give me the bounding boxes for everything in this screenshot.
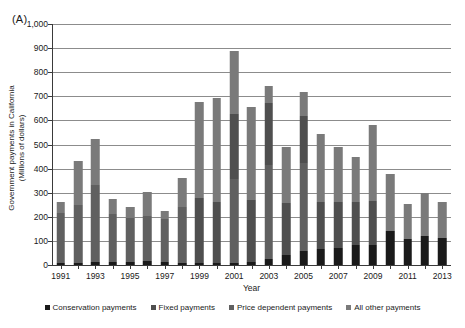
- bar-segment[interactable]: [317, 134, 326, 202]
- bar-segment[interactable]: [403, 239, 412, 265]
- stacked-bar[interactable]: [247, 107, 256, 265]
- bar-segment[interactable]: [299, 116, 308, 163]
- bar-segment[interactable]: [108, 214, 117, 262]
- bar-segment[interactable]: [282, 147, 291, 203]
- bar-segment[interactable]: [56, 213, 65, 262]
- bar-slot[interactable]: [121, 24, 138, 265]
- bar-segment[interactable]: [438, 238, 447, 265]
- bar-slot[interactable]: [69, 24, 86, 265]
- stacked-bar[interactable]: [299, 92, 308, 265]
- stacked-bar[interactable]: [178, 178, 187, 265]
- bar-segment[interactable]: [334, 202, 343, 248]
- stacked-bar[interactable]: [282, 147, 291, 265]
- bar-segment[interactable]: [247, 200, 256, 261]
- stacked-bar[interactable]: [386, 174, 395, 265]
- bar-segment[interactable]: [143, 192, 152, 217]
- bar-slot[interactable]: [364, 24, 381, 265]
- bar-segment[interactable]: [161, 211, 170, 219]
- bar-segment[interactable]: [230, 179, 239, 263]
- bar-segment[interactable]: [386, 231, 395, 265]
- bar-segment[interactable]: [126, 218, 135, 261]
- bar-segment[interactable]: [265, 165, 274, 259]
- bar-segment[interactable]: [317, 249, 326, 265]
- stacked-bar[interactable]: [317, 134, 326, 265]
- bar-segment[interactable]: [247, 107, 256, 200]
- bar-slot[interactable]: [87, 24, 104, 265]
- bar-segment[interactable]: [351, 202, 360, 245]
- stacked-bar[interactable]: [108, 199, 117, 265]
- bar-segment[interactable]: [351, 245, 360, 265]
- legend-item[interactable]: Price dependent payments: [229, 303, 332, 312]
- bar-segment[interactable]: [213, 202, 222, 262]
- bar-slot[interactable]: [347, 24, 364, 265]
- stacked-bar[interactable]: [265, 86, 274, 265]
- stacked-bar[interactable]: [213, 98, 222, 265]
- stacked-bar[interactable]: [351, 157, 360, 265]
- bar-segment[interactable]: [265, 103, 274, 164]
- bar-segment[interactable]: [369, 201, 378, 246]
- bar-slot[interactable]: [191, 24, 208, 265]
- bar-segment[interactable]: [351, 157, 360, 202]
- bar-slot[interactable]: [225, 24, 242, 265]
- bar-segment[interactable]: [230, 114, 239, 179]
- bar-segment[interactable]: [403, 204, 412, 240]
- bar-segment[interactable]: [317, 202, 326, 249]
- bar-segment[interactable]: [265, 86, 274, 103]
- stacked-bar[interactable]: [195, 102, 204, 265]
- bar-slot[interactable]: [243, 24, 260, 265]
- bar-segment[interactable]: [334, 147, 343, 203]
- bar-slot[interactable]: [260, 24, 277, 265]
- bar-slot[interactable]: [208, 24, 225, 265]
- bar-segment[interactable]: [178, 207, 187, 262]
- bar-slot[interactable]: [52, 24, 69, 265]
- bar-segment[interactable]: [195, 102, 204, 197]
- bar-segment[interactable]: [282, 203, 291, 255]
- legend-item[interactable]: All other payments: [346, 303, 420, 312]
- stacked-bar[interactable]: [143, 192, 152, 265]
- bar-segment[interactable]: [91, 139, 100, 186]
- bar-segment[interactable]: [178, 178, 187, 208]
- bar-slot[interactable]: [278, 24, 295, 265]
- bar-segment[interactable]: [74, 161, 83, 205]
- bar-slot[interactable]: [330, 24, 347, 265]
- bar-slot[interactable]: [295, 24, 312, 265]
- bar-segment[interactable]: [386, 174, 395, 231]
- stacked-bar[interactable]: [438, 202, 447, 265]
- bar-segment[interactable]: [369, 245, 378, 265]
- bar-segment[interactable]: [56, 202, 65, 213]
- bar-slot[interactable]: [139, 24, 156, 265]
- stacked-bar[interactable]: [56, 202, 65, 265]
- stacked-bar[interactable]: [161, 211, 170, 265]
- bar-segment[interactable]: [299, 251, 308, 265]
- bar-segment[interactable]: [108, 199, 117, 214]
- bar-slot[interactable]: [173, 24, 190, 265]
- bar-slot[interactable]: [434, 24, 451, 265]
- bar-slot[interactable]: [399, 24, 416, 265]
- bar-segment[interactable]: [282, 255, 291, 265]
- stacked-bar[interactable]: [421, 193, 430, 265]
- legend-item[interactable]: Conservation payments: [45, 303, 137, 312]
- bar-segment[interactable]: [299, 163, 308, 251]
- bar-slot[interactable]: [312, 24, 329, 265]
- stacked-bar[interactable]: [369, 125, 378, 265]
- bar-segment[interactable]: [195, 198, 204, 263]
- stacked-bar[interactable]: [91, 139, 100, 266]
- bar-segment[interactable]: [91, 185, 100, 262]
- bar-segment[interactable]: [143, 216, 152, 261]
- stacked-bar[interactable]: [74, 161, 83, 265]
- stacked-bar[interactable]: [334, 147, 343, 265]
- bar-segment[interactable]: [230, 51, 239, 114]
- stacked-bar[interactable]: [126, 207, 135, 265]
- bar-segment[interactable]: [438, 202, 447, 238]
- stacked-bar[interactable]: [403, 204, 412, 265]
- bar-segment[interactable]: [74, 205, 83, 263]
- bar-segment[interactable]: [126, 207, 135, 219]
- bar-slot[interactable]: [156, 24, 173, 265]
- legend-item[interactable]: Fixed payments: [151, 303, 215, 312]
- bar-segment[interactable]: [213, 98, 222, 203]
- bar-slot[interactable]: [416, 24, 433, 265]
- bar-segment[interactable]: [421, 236, 430, 265]
- bar-segment[interactable]: [334, 248, 343, 265]
- bar-segment[interactable]: [421, 193, 430, 236]
- bar-slot[interactable]: [104, 24, 121, 265]
